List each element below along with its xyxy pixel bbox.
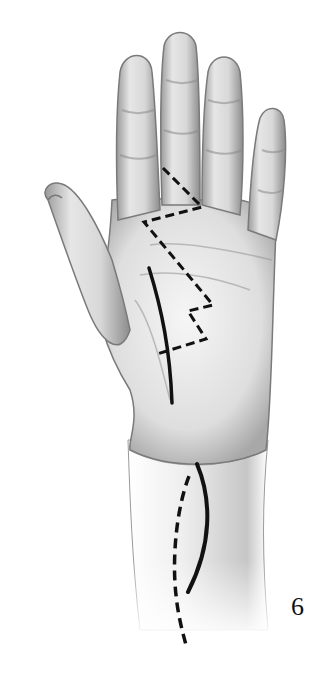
figure-number: 6 (291, 594, 304, 620)
middle-finger (161, 33, 200, 206)
hand-illustration (0, 0, 329, 678)
index-finger (117, 56, 160, 221)
ring-finger (202, 57, 243, 215)
little-finger (248, 108, 286, 240)
